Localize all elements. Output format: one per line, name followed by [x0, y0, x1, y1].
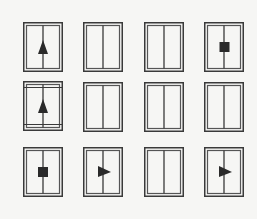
cell-r1-c2 [83, 22, 123, 72]
window-frame-icon [83, 147, 123, 197]
window-frame-icon [204, 147, 244, 197]
window-frame-icon [144, 22, 184, 72]
cell-r3-c1 [23, 147, 63, 197]
window-frame-icon [23, 81, 63, 131]
cell-r1-c1 [23, 22, 63, 72]
window-frame-icon [23, 147, 63, 197]
up-arrow-icon [38, 40, 48, 54]
cell-r2-c4 [204, 82, 244, 132]
cell-r3-c4 [204, 147, 244, 197]
window-frame-icon [204, 82, 244, 132]
cell-r2-c2 [83, 82, 123, 132]
right-triangle-icon [98, 166, 111, 177]
cell-r1-c4 [204, 22, 244, 72]
up-arrow-icon [38, 99, 48, 113]
right-triangle-icon [219, 166, 232, 177]
square-icon [38, 167, 48, 177]
window-frame-icon [144, 147, 184, 197]
puzzle-grid [0, 0, 257, 219]
window-frame-icon [83, 22, 123, 72]
cell-r3-c2 [83, 147, 123, 197]
square-icon [220, 42, 230, 52]
cell-r1-c3 [144, 22, 184, 72]
window-frame-icon [204, 22, 244, 72]
cell-r2-c3 [144, 82, 184, 132]
window-frame-icon [83, 82, 123, 132]
cell-r2-c1 [23, 81, 63, 131]
cell-r3-c3 [144, 147, 184, 197]
window-frame-icon [144, 82, 184, 132]
window-frame-icon [23, 22, 63, 72]
